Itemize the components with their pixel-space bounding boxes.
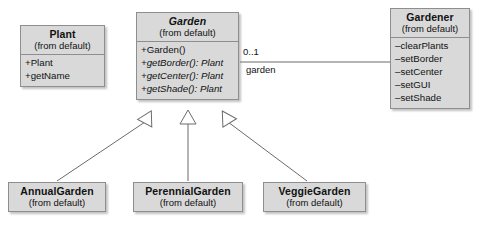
class-members-plant: +Plant +getName bbox=[21, 55, 104, 86]
class-name-gardener: Gardener bbox=[395, 12, 465, 24]
class-box-gardener[interactable]: Gardener (from default) –clearPlants –se… bbox=[390, 8, 470, 109]
class-box-annualgarden[interactable]: AnnualGarden (from default) bbox=[8, 182, 106, 212]
class-package-garden: (from default) bbox=[141, 28, 234, 39]
class-member: –setShade bbox=[395, 92, 469, 105]
generalization-line-annualgarden bbox=[57, 122, 145, 181]
generalization-arrow-perennialgarden bbox=[180, 110, 196, 124]
class-package-veggiegarden: (from default) bbox=[268, 198, 361, 209]
class-header-plant: Plant (from default) bbox=[21, 26, 104, 54]
class-package-plant: (from default) bbox=[25, 41, 100, 52]
class-name-plant: Plant bbox=[25, 29, 100, 41]
class-member: –clearPlants bbox=[395, 40, 469, 53]
class-member: –setCenter bbox=[395, 66, 469, 79]
class-name-annualgarden: AnnualGarden bbox=[13, 186, 101, 198]
class-package-annualgarden: (from default) bbox=[13, 198, 101, 209]
class-members-gardener: –clearPlants –setBorder –setCenter –setG… bbox=[391, 38, 469, 107]
generalization-line-veggiegarden bbox=[228, 122, 307, 181]
generalization-arrow-veggiegarden bbox=[216, 107, 237, 127]
class-name-perennialgarden: PerennialGarden bbox=[138, 186, 238, 198]
association-multiplicity-label: 0..1 bbox=[243, 46, 259, 57]
class-member: +getBorder(): Plant bbox=[141, 57, 238, 70]
class-header-gardener: Gardener (from default) bbox=[391, 9, 469, 37]
class-box-veggiegarden[interactable]: VeggieGarden (from default) bbox=[263, 182, 366, 212]
class-box-garden[interactable]: Garden (from default) +Garden() +getBord… bbox=[136, 12, 239, 100]
class-name-garden: Garden bbox=[141, 16, 234, 28]
class-package-gardener: (from default) bbox=[395, 24, 465, 35]
class-member: –setGUI bbox=[395, 79, 469, 92]
class-member: –setBorder bbox=[395, 53, 469, 66]
class-header-annualgarden: AnnualGarden (from default) bbox=[9, 183, 105, 211]
class-member: +getShade(): Plant bbox=[141, 83, 238, 96]
class-box-perennialgarden[interactable]: PerennialGarden (from default) bbox=[133, 182, 243, 212]
class-member: +Plant bbox=[25, 57, 104, 70]
class-header-veggiegarden: VeggieGarden (from default) bbox=[264, 183, 365, 211]
class-member: +getCenter(): Plant bbox=[141, 70, 238, 83]
class-header-garden: Garden (from default) bbox=[137, 13, 238, 41]
class-package-perennialgarden: (from default) bbox=[138, 198, 238, 209]
generalization-arrow-annualgarden bbox=[138, 107, 159, 127]
class-name-veggiegarden: VeggieGarden bbox=[268, 186, 361, 198]
class-member: +getName bbox=[25, 70, 104, 83]
class-members-garden: +Garden() +getBorder(): Plant +getCenter… bbox=[137, 42, 238, 99]
class-box-plant[interactable]: Plant (from default) +Plant +getName bbox=[20, 25, 105, 87]
association-role-label: garden bbox=[246, 64, 276, 75]
class-header-perennialgarden: PerennialGarden (from default) bbox=[134, 183, 242, 211]
class-member: +Garden() bbox=[141, 44, 238, 57]
uml-class-diagram-canvas: 0..1 garden Plant (from default) +Plant … bbox=[0, 0, 477, 231]
